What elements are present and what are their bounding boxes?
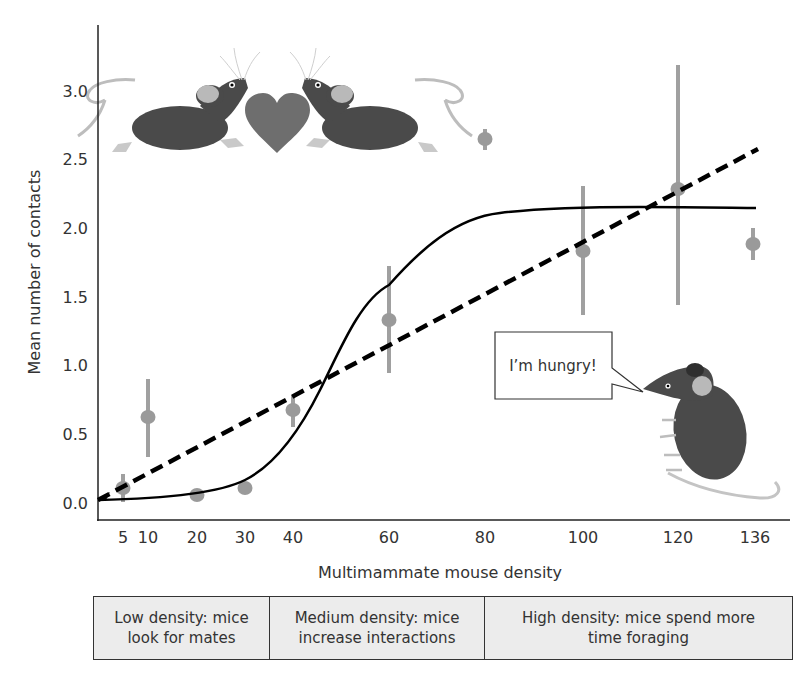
speech-bubble-text: I’m hungry! xyxy=(509,357,597,375)
y-axis-title: Mean number of contacts xyxy=(25,170,44,375)
chart: I’m hungry! 0.0 0.5 1.0 1.5 2.0 2.5 3.0 … xyxy=(0,0,812,600)
data-point xyxy=(286,403,301,417)
data-point xyxy=(190,488,205,502)
x-tick: 120 xyxy=(663,528,694,547)
y-tick: 1.5 xyxy=(63,288,88,307)
x-tick-labels: 5 10 20 30 40 60 80 100 120 136 xyxy=(118,528,770,547)
x-tick: 80 xyxy=(475,528,495,547)
data-point xyxy=(382,313,397,327)
x-tick: 60 xyxy=(379,528,399,547)
sigmoid-fit-curve xyxy=(98,207,756,500)
y-tick: 1.0 xyxy=(63,356,88,375)
mouse-left-icon xyxy=(78,48,260,152)
y-tick: 3.0 xyxy=(63,82,88,101)
cropped-caption-line xyxy=(60,686,812,695)
y-tick: 2.5 xyxy=(63,150,88,169)
data-point xyxy=(478,132,493,146)
data-point xyxy=(746,237,761,251)
zone-medium-density: Medium density: mice increase interactio… xyxy=(269,597,484,659)
y-tick: 0.5 xyxy=(63,425,88,444)
speech-bubble: I’m hungry! xyxy=(495,332,643,399)
two-mice-with-heart-illustration xyxy=(78,48,472,153)
y-tick: 2.0 xyxy=(63,219,88,238)
x-tick: 30 xyxy=(235,528,255,547)
x-axis-title: Multimammate mouse density xyxy=(318,563,562,582)
heart-icon xyxy=(245,93,310,153)
zone-high-density: High density: mice spend more time forag… xyxy=(484,597,792,659)
zone-label: Medium density: mice increase interactio… xyxy=(295,608,460,648)
x-tick: 100 xyxy=(568,528,599,547)
x-tick: 10 xyxy=(138,528,158,547)
zone-label: Low density: mice look for mates xyxy=(114,608,248,648)
y-tick: 0.0 xyxy=(63,494,88,513)
zone-low-density: Low density: mice look for mates xyxy=(94,597,269,659)
density-zones-table: Low density: mice look for mates Medium … xyxy=(93,596,793,660)
x-tick: 5 xyxy=(118,528,128,547)
mouse-right-icon xyxy=(290,48,472,152)
zone-label: High density: mice spend more time forag… xyxy=(522,608,755,648)
y-tick-labels: 0.0 0.5 1.0 1.5 2.0 2.5 3.0 xyxy=(63,82,88,513)
x-tick: 20 xyxy=(187,528,207,547)
x-tick: 136 xyxy=(740,528,771,547)
linear-fit-line xyxy=(98,149,758,500)
data-point xyxy=(141,410,156,424)
x-tick: 40 xyxy=(283,528,303,547)
hungry-mouse-illustration xyxy=(643,363,779,498)
